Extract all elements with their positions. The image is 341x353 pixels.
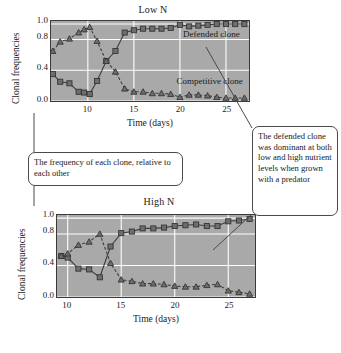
callout-defended-dominance-note: The defended clone was dominant at both … (252, 126, 338, 216)
callout-frequency-note: The frequency of each clone, relative to… (28, 152, 183, 186)
leader-line-right-down (213, 214, 252, 250)
leader-line-right-up (206, 47, 252, 128)
figure-clonal-frequencies: Low N Clonal frequencies 1.0 0.8 0.4 0.0… (0, 0, 341, 353)
